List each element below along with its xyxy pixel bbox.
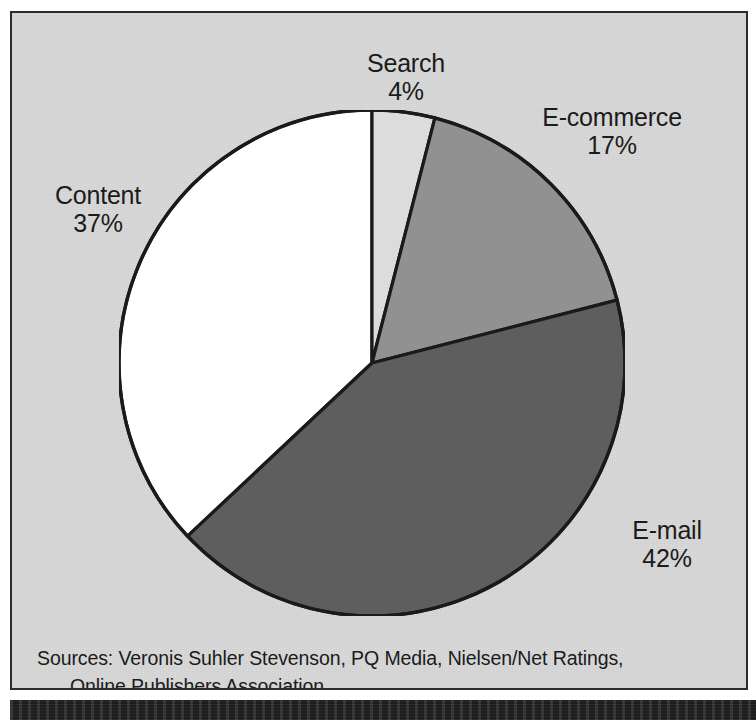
pie-chart xyxy=(119,110,625,616)
page-bottom-bar xyxy=(10,700,756,720)
figure-page: Internet Advertising Spending by Format … xyxy=(0,0,756,720)
pie-label-search-name: Search xyxy=(367,49,445,77)
chart-panel: Search 4% E-commerce 17% Content 37% E-m… xyxy=(10,11,748,690)
pie-label-ecommerce-name: E-commerce xyxy=(542,103,682,131)
pie-label-email-percent: 42% xyxy=(587,544,747,572)
sources-line-2: Online Publishers Association xyxy=(37,672,697,690)
pie-label-email-name: E-mail xyxy=(632,516,702,544)
sources-note: Sources: Veronis Suhler Stevenson, PQ Me… xyxy=(37,644,697,690)
pie-chart-svg xyxy=(119,110,625,616)
pie-label-search-percent: 4% xyxy=(331,77,481,105)
pie-label-content: Content 37% xyxy=(18,181,178,237)
page-left-margin xyxy=(0,11,10,700)
cropped-title-sliver: Internet Advertising Spending by Format xyxy=(0,0,756,11)
pie-label-ecommerce: E-commerce 17% xyxy=(512,103,712,159)
sources-line-1: Sources: Veronis Suhler Stevenson, PQ Me… xyxy=(37,644,697,672)
pie-label-ecommerce-percent: 17% xyxy=(512,131,712,159)
pie-label-content-name: Content xyxy=(55,181,141,209)
pie-label-search: Search 4% xyxy=(331,49,481,105)
pie-label-content-percent: 37% xyxy=(18,209,178,237)
pie-label-email: E-mail 42% xyxy=(587,516,747,572)
